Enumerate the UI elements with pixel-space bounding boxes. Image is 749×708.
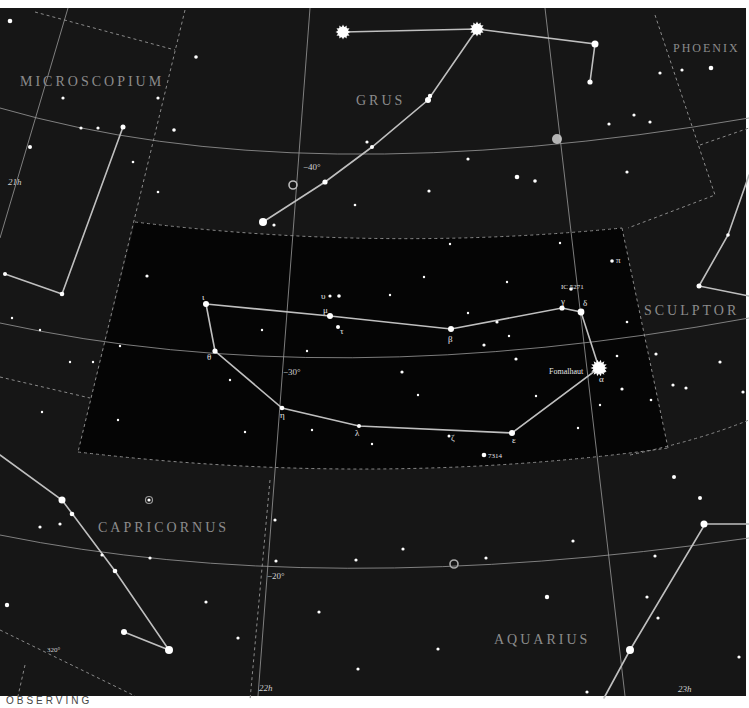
star xyxy=(592,41,599,48)
star xyxy=(121,629,127,635)
star xyxy=(709,66,714,71)
star xyxy=(322,179,327,184)
star xyxy=(571,539,574,542)
star xyxy=(371,443,373,445)
star-label-lambda: λ xyxy=(355,428,360,438)
star xyxy=(587,79,592,84)
star xyxy=(737,655,740,658)
star xyxy=(648,120,651,123)
star xyxy=(354,558,357,561)
galaxy-icon xyxy=(552,134,562,144)
star-label-mu: μ xyxy=(323,305,328,315)
star xyxy=(354,204,357,207)
star xyxy=(698,496,702,500)
label-ic5271: IC 5271 xyxy=(561,283,584,291)
star xyxy=(113,569,118,574)
star xyxy=(100,553,103,556)
label-dec-minus40: −40° xyxy=(303,162,321,172)
star xyxy=(328,294,331,297)
star xyxy=(466,157,469,160)
star xyxy=(654,352,657,355)
star xyxy=(626,646,634,654)
star xyxy=(41,411,43,413)
star xyxy=(428,94,432,98)
label-fomalhaut: Fomalhaut xyxy=(549,367,584,376)
star xyxy=(672,475,676,479)
star-label-tau: τ xyxy=(340,326,344,336)
star xyxy=(317,610,320,613)
star xyxy=(327,313,333,319)
star xyxy=(680,68,683,71)
star xyxy=(508,335,510,337)
star xyxy=(495,320,498,323)
star xyxy=(535,395,537,397)
star xyxy=(718,360,721,363)
star xyxy=(119,345,121,347)
star xyxy=(259,218,267,226)
star xyxy=(38,525,41,528)
star xyxy=(236,636,239,639)
label-phoenix: PHOENIX xyxy=(673,41,740,55)
star xyxy=(212,348,217,353)
star xyxy=(147,498,150,501)
star-label-pi: π xyxy=(616,255,621,265)
star xyxy=(273,518,276,521)
star xyxy=(599,404,601,406)
star xyxy=(684,386,687,389)
star-label-beta: β xyxy=(448,334,453,344)
star xyxy=(311,429,313,431)
star xyxy=(58,522,61,525)
label-aquarius: AQUARIUS xyxy=(494,632,590,647)
star xyxy=(204,600,207,603)
label-grus: GRUS xyxy=(356,93,405,108)
star xyxy=(69,361,71,363)
star xyxy=(96,126,99,129)
star xyxy=(3,272,7,276)
star xyxy=(625,170,628,173)
star xyxy=(506,281,508,283)
star xyxy=(620,387,623,390)
star xyxy=(484,556,487,559)
star xyxy=(337,294,341,298)
star-label-alpha: α xyxy=(599,374,604,384)
star xyxy=(697,284,702,289)
star-label-delta: δ xyxy=(583,298,587,308)
focus-constellation-region xyxy=(78,222,668,469)
star xyxy=(585,690,588,693)
star xyxy=(156,96,159,99)
star xyxy=(401,547,404,550)
star xyxy=(616,355,619,358)
star xyxy=(559,242,561,244)
star xyxy=(658,71,661,74)
star xyxy=(726,233,730,237)
star xyxy=(515,175,520,180)
star xyxy=(545,595,549,599)
star xyxy=(671,383,674,386)
star xyxy=(449,243,451,245)
star xyxy=(117,419,119,421)
star xyxy=(436,647,439,650)
star xyxy=(423,276,425,278)
star-label-epsilon: ε xyxy=(512,435,516,445)
star xyxy=(28,145,32,149)
label-ra-23h: 23h xyxy=(678,684,692,694)
star xyxy=(578,309,585,316)
star xyxy=(306,350,308,352)
star xyxy=(172,128,176,132)
star xyxy=(482,453,487,458)
star-label-upsilon: υ xyxy=(321,291,326,301)
label-capricornus: CAPRICORNUS xyxy=(98,520,229,535)
star-label-theta: θ xyxy=(207,352,211,362)
star-label-eta: η xyxy=(280,410,285,420)
star xyxy=(607,122,610,125)
star xyxy=(60,292,65,297)
star xyxy=(577,427,579,429)
star xyxy=(261,329,263,331)
star xyxy=(229,379,231,381)
star xyxy=(61,96,64,99)
star-chart: MICROSCOPIUM GRUS PHOENIX SCULPTOR CAPRI… xyxy=(0,0,749,708)
star xyxy=(400,370,403,373)
star xyxy=(514,357,517,360)
label-ra-22h: 22h xyxy=(259,683,273,693)
star xyxy=(165,646,173,654)
